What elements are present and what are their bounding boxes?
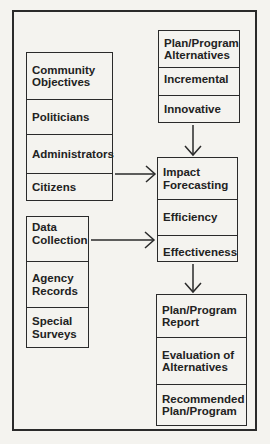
connector-arrows — [0, 0, 270, 444]
arrow-down-icon — [185, 125, 201, 155]
arrow-right-icon — [91, 232, 154, 248]
arrow-down-icon — [185, 264, 201, 292]
arrow-right-icon — [115, 166, 155, 182]
